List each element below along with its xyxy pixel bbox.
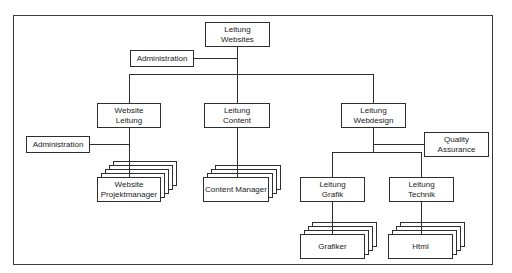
- node-label: Quality Assurance: [438, 135, 476, 155]
- node-label: Leitung Grafik: [319, 180, 345, 200]
- node-website-projektmanager[interactable]: Website Projektmanager: [97, 177, 161, 202]
- connector: [373, 127, 374, 152]
- connector: [129, 74, 130, 103]
- node-administration-root[interactable]: Administration: [130, 50, 194, 67]
- connector: [421, 152, 422, 177]
- node-label: Leitung Websites: [221, 25, 254, 45]
- node-leitung-content[interactable]: Leitung Content: [204, 103, 270, 128]
- node-leitung-websites[interactable]: Leitung Websites: [205, 22, 270, 47]
- node-website-leitung[interactable]: Website Leitung: [97, 103, 161, 128]
- connector: [237, 165, 238, 177]
- connector: [193, 58, 237, 59]
- connector: [129, 74, 374, 75]
- node-label: Leitung Content: [223, 106, 251, 126]
- connector: [332, 222, 333, 234]
- node-leitung-grafik[interactable]: Leitung Grafik: [300, 177, 365, 202]
- node-html[interactable]: Html: [388, 234, 453, 259]
- node-leitung-technik[interactable]: Leitung Technik: [389, 177, 454, 202]
- connector: [373, 144, 424, 145]
- connector: [237, 46, 238, 74]
- node-content-manager[interactable]: Content Manager: [203, 177, 269, 202]
- node-label: Grafiker: [318, 242, 346, 252]
- connector: [129, 161, 130, 177]
- node-grafiker[interactable]: Grafiker: [300, 234, 365, 259]
- connector: [421, 222, 422, 234]
- connector: [332, 152, 422, 153]
- node-leitung-webdesign[interactable]: Leitung Webdesign: [341, 103, 406, 128]
- node-label: Administration: [137, 54, 188, 64]
- node-administration-website[interactable]: Administration: [26, 136, 90, 153]
- node-label: Html: [412, 242, 428, 252]
- node-label: Website Projektmanager: [101, 180, 157, 200]
- node-quality-assurance[interactable]: Quality Assurance: [424, 132, 489, 157]
- connector: [89, 144, 129, 145]
- node-label: Website Leitung: [115, 106, 144, 126]
- node-label: Administration: [33, 140, 84, 150]
- node-label: Leitung Technik: [408, 180, 435, 200]
- connector: [332, 152, 333, 177]
- node-label: Leitung Webdesign: [354, 106, 394, 126]
- connector: [237, 74, 238, 103]
- connector: [373, 74, 374, 103]
- node-label: Content Manager: [205, 185, 267, 195]
